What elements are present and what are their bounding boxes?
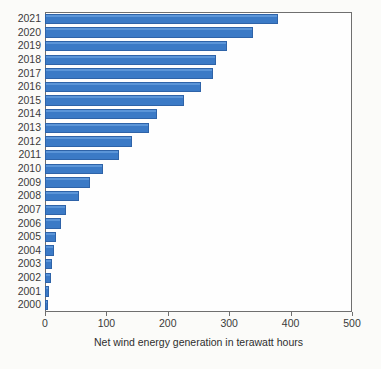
y-axis-label-2003: 2003 bbox=[0, 257, 41, 271]
bar-row bbox=[45, 94, 352, 108]
bar-row bbox=[45, 67, 352, 81]
x-axis-tick bbox=[106, 312, 107, 316]
bar-highlight bbox=[46, 69, 212, 71]
y-axis-label-2006: 2006 bbox=[0, 217, 41, 231]
bar-2018 bbox=[45, 55, 216, 65]
x-axis-tick-label-500: 500 bbox=[332, 317, 372, 329]
bar-highlight bbox=[46, 301, 47, 303]
y-axis-label-2002: 2002 bbox=[0, 271, 41, 285]
wind-energy-bar-chart: 2021202020192018201720162015201420132012… bbox=[0, 0, 381, 369]
x-axis-title: Net wind energy generation in terawatt h… bbox=[45, 336, 352, 348]
bar-highlight bbox=[46, 192, 78, 194]
y-axis-label-2007: 2007 bbox=[0, 203, 41, 217]
bar-2004 bbox=[45, 245, 54, 255]
y-axis-label-2021: 2021 bbox=[0, 12, 41, 26]
bar-row bbox=[45, 203, 352, 217]
bar-2013 bbox=[45, 123, 149, 133]
bar-row bbox=[45, 162, 352, 176]
bar-highlight bbox=[46, 15, 277, 17]
x-axis-tick-label-400: 400 bbox=[271, 317, 311, 329]
bar-2019 bbox=[45, 41, 227, 51]
bar-2021 bbox=[45, 14, 278, 24]
bar-2020 bbox=[45, 27, 253, 37]
y-axis-label-2020: 2020 bbox=[0, 26, 41, 40]
bar-row bbox=[45, 135, 352, 149]
bar-highlight bbox=[46, 246, 53, 248]
bar-highlight bbox=[46, 124, 148, 126]
y-axis-label-2016: 2016 bbox=[0, 80, 41, 94]
x-axis-tick bbox=[229, 312, 230, 316]
x-axis-tick-label-100: 100 bbox=[86, 317, 126, 329]
bar-row bbox=[45, 53, 352, 67]
y-axis-label-2000: 2000 bbox=[0, 298, 41, 312]
bar-highlight bbox=[46, 287, 48, 289]
y-axis-label-2019: 2019 bbox=[0, 39, 41, 53]
bar-2005 bbox=[45, 232, 56, 242]
bar-row bbox=[45, 12, 352, 26]
bar-highlight bbox=[46, 96, 183, 98]
y-axis-label-2017: 2017 bbox=[0, 67, 41, 81]
y-axis-label-2012: 2012 bbox=[0, 135, 41, 149]
bar-2011 bbox=[45, 150, 119, 160]
bar-row bbox=[45, 176, 352, 190]
bar-2006 bbox=[45, 218, 61, 228]
bar-2003 bbox=[45, 259, 52, 269]
bar-highlight bbox=[46, 165, 102, 167]
bar-2002 bbox=[45, 273, 51, 283]
bar-highlight bbox=[46, 28, 252, 30]
x-axis-tick-label-300: 300 bbox=[209, 317, 249, 329]
bar-row bbox=[45, 285, 352, 299]
bar-highlight bbox=[46, 83, 200, 85]
bar-highlight bbox=[46, 137, 131, 139]
bar-row bbox=[45, 244, 352, 258]
bar-row bbox=[45, 271, 352, 285]
bar-highlight bbox=[46, 151, 118, 153]
bar-2008 bbox=[45, 191, 79, 201]
y-axis-label-2010: 2010 bbox=[0, 162, 41, 176]
bar-row bbox=[45, 80, 352, 94]
bar-row bbox=[45, 39, 352, 53]
bar-2010 bbox=[45, 164, 103, 174]
y-axis-label-2015: 2015 bbox=[0, 94, 41, 108]
y-axis-label-2011: 2011 bbox=[0, 148, 41, 162]
y-axis-label-2005: 2005 bbox=[0, 230, 41, 244]
bar-highlight bbox=[46, 178, 89, 180]
bar-2014 bbox=[45, 109, 157, 119]
bar-2012 bbox=[45, 136, 132, 146]
y-axis-label-2001: 2001 bbox=[0, 285, 41, 299]
bar-highlight bbox=[46, 206, 65, 208]
bar-2015 bbox=[45, 95, 184, 105]
bar-row bbox=[45, 107, 352, 121]
y-axis-label-2004: 2004 bbox=[0, 244, 41, 258]
bar-row bbox=[45, 189, 352, 203]
bar-row bbox=[45, 217, 352, 231]
bar-highlight bbox=[46, 233, 55, 235]
bar-2007 bbox=[45, 205, 66, 215]
bar-2016 bbox=[45, 82, 201, 92]
y-axis-label-2009: 2009 bbox=[0, 176, 41, 190]
bar-row bbox=[45, 121, 352, 135]
bar-highlight bbox=[46, 42, 226, 44]
bar-row bbox=[45, 230, 352, 244]
bar-2009 bbox=[45, 177, 90, 187]
x-axis-tick bbox=[352, 312, 353, 316]
bar-highlight bbox=[46, 219, 60, 221]
y-axis-label-2014: 2014 bbox=[0, 107, 41, 121]
x-axis-tick bbox=[291, 312, 292, 316]
x-axis-tick-label-200: 200 bbox=[148, 317, 188, 329]
x-axis-tick-label-0: 0 bbox=[25, 317, 65, 329]
bar-highlight bbox=[46, 110, 156, 112]
y-axis-label-2018: 2018 bbox=[0, 53, 41, 67]
bar-highlight bbox=[46, 274, 50, 276]
bar-row bbox=[45, 298, 352, 312]
bar-highlight bbox=[46, 56, 215, 58]
bar-row bbox=[45, 148, 352, 162]
bar-row bbox=[45, 257, 352, 271]
x-axis-tick bbox=[45, 312, 46, 316]
bar-2000 bbox=[45, 300, 48, 310]
bar-highlight bbox=[46, 260, 51, 262]
x-axis-tick bbox=[168, 312, 169, 316]
bar-2017 bbox=[45, 68, 213, 78]
bars-container bbox=[45, 12, 352, 312]
bar-row bbox=[45, 26, 352, 40]
